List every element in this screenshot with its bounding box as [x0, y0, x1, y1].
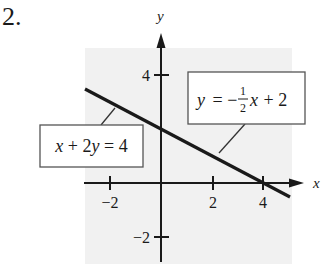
- svg-text:2: 2: [240, 101, 246, 115]
- svg-text:1: 1: [240, 84, 246, 98]
- svg-text:2: 2: [209, 194, 217, 211]
- right-equation-box: y = − 1 2 x + 2: [188, 72, 305, 124]
- x-axis-label: x: [312, 175, 320, 191]
- problem-number: 2.: [2, 2, 22, 31]
- svg-text:x + 2y = 4: x + 2y = 4: [54, 136, 127, 156]
- svg-text:x: x: [249, 90, 258, 110]
- svg-text:−2: −2: [133, 229, 150, 246]
- left-equation-box: x + 2y = 4: [40, 125, 143, 167]
- x-axis-arrow-icon: [289, 179, 304, 188]
- svg-text:+ 2: + 2: [259, 90, 287, 110]
- svg-text:4: 4: [259, 194, 267, 211]
- y-axis-arrow-icon: [157, 33, 166, 48]
- graph-figure: 2. y x −2 2 4 4 −2 x + 2y = 4 y = −: [0, 0, 330, 266]
- svg-text:= −: = −: [208, 90, 237, 110]
- svg-text:−2: −2: [101, 194, 118, 211]
- y-axis-label: y: [155, 8, 164, 24]
- svg-text:y: y: [195, 90, 205, 110]
- svg-text:4: 4: [142, 67, 150, 84]
